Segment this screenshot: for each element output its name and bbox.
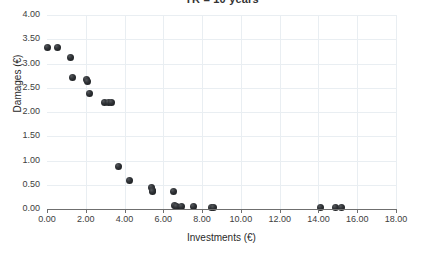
gridline-vertical — [280, 15, 281, 209]
chart-figure: TR = 10 years Damages (€) Investments (€… — [0, 0, 444, 253]
scatter-point — [54, 44, 61, 51]
y-tick-label: 2.00 — [0, 106, 40, 116]
gridline-vertical — [163, 15, 164, 209]
gridline-vertical — [396, 15, 397, 209]
gridline-horizontal — [47, 161, 396, 162]
gridline-vertical — [318, 15, 319, 209]
plot-area — [47, 15, 396, 209]
gridline-horizontal — [47, 112, 396, 113]
x-tick-label: 4.00 — [103, 214, 147, 224]
y-tick-label: 1.00 — [0, 155, 40, 165]
gridline-horizontal — [47, 136, 396, 137]
x-tick-label: 2.00 — [64, 214, 108, 224]
y-tick-label: 0.00 — [0, 203, 40, 213]
x-tick-mark — [202, 209, 203, 213]
x-tick-label: 12.00 — [258, 214, 302, 224]
y-tick-label: 0.50 — [0, 179, 40, 189]
x-tick-label: 0.00 — [25, 214, 69, 224]
gridline-vertical — [202, 15, 203, 209]
x-tick-mark — [86, 209, 87, 213]
chart-title: TR = 10 years — [0, 0, 444, 5]
x-tick-mark — [396, 209, 397, 213]
gridline-vertical — [357, 15, 358, 209]
x-tick-mark — [241, 209, 242, 213]
x-tick-mark — [280, 209, 281, 213]
scatter-point — [86, 90, 93, 97]
x-tick-label: 8.00 — [180, 214, 224, 224]
gridline-horizontal — [47, 185, 396, 186]
scatter-point — [149, 188, 156, 195]
scatter-point — [44, 44, 51, 51]
x-axis-label: Investments (€) — [47, 232, 396, 243]
scatter-point — [69, 74, 76, 81]
scatter-point — [108, 99, 115, 106]
x-tick-mark — [357, 209, 358, 213]
y-tick-label: 4.00 — [0, 9, 40, 19]
x-tick-label: 18.00 — [374, 214, 418, 224]
scatter-point — [115, 163, 122, 170]
y-tick-label: 3.00 — [0, 58, 40, 68]
x-tick-label: 16.00 — [335, 214, 379, 224]
gridline-horizontal — [47, 39, 396, 40]
y-tick-label: 1.50 — [0, 130, 40, 140]
gridline-horizontal — [47, 64, 396, 65]
gridline-vertical — [86, 15, 87, 209]
x-tick-mark — [47, 209, 48, 213]
x-tick-mark — [318, 209, 319, 213]
scatter-point — [170, 188, 177, 195]
scatter-point — [67, 54, 74, 61]
x-tick-label: 14.00 — [296, 214, 340, 224]
gridline-vertical — [241, 15, 242, 209]
gridline-horizontal — [47, 88, 396, 89]
scatter-point — [84, 78, 91, 85]
gridline-horizontal — [47, 15, 396, 16]
x-tick-mark — [163, 209, 164, 213]
x-axis-line — [47, 209, 396, 210]
y-tick-label: 2.50 — [0, 82, 40, 92]
scatter-point — [126, 177, 133, 184]
x-tick-label: 10.00 — [219, 214, 263, 224]
y-tick-label: 3.50 — [0, 33, 40, 43]
x-tick-mark — [125, 209, 126, 213]
x-tick-label: 6.00 — [141, 214, 185, 224]
